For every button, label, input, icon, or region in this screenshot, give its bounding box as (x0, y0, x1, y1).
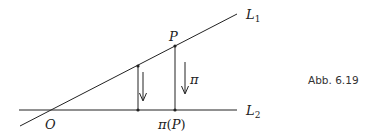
point-left-on-l2 (136, 108, 139, 111)
figure-caption: Abb. 6.19 (308, 74, 359, 86)
point-left-on-l1 (136, 64, 139, 67)
projection-diagram: L1 L2 O P π π(P) Abb. 6.19 (0, 0, 371, 136)
label-l2: L2 (245, 103, 260, 120)
label-origin: O (45, 117, 56, 132)
label-l1: L1 (245, 7, 260, 24)
point-p (173, 44, 176, 47)
label-pi-of-p: π(P) (157, 117, 185, 132)
down-arrow-icon (140, 72, 147, 101)
label-pi-map: π (189, 72, 199, 87)
pi-map-arrow-icon (182, 62, 189, 94)
line-l1 (20, 14, 237, 126)
point-pi-p (173, 108, 176, 111)
label-p: P (168, 29, 178, 44)
